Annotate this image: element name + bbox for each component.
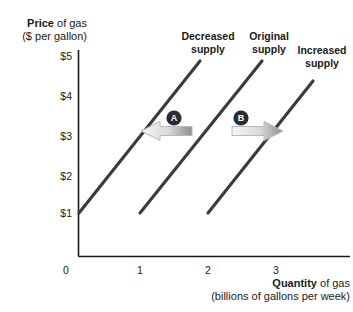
- y-tick-4: $4: [48, 90, 72, 102]
- curve-label-increased-supply: Increased supply: [292, 44, 352, 69]
- marker-b-label: B: [238, 113, 245, 123]
- y-axis-title-rest: of gas: [54, 17, 87, 29]
- y-tick-5: $5: [48, 50, 72, 62]
- marker-a-label: A: [171, 113, 178, 123]
- x-axis-title-units: (billions of gallons per week): [211, 290, 350, 302]
- y-axis-title-bold: Price: [27, 17, 54, 29]
- x-tick-1: 1: [132, 264, 148, 276]
- x-axis-title: Quantity of gas (billions of gallons per…: [150, 277, 350, 303]
- y-axis-title-units: ($ per gallon): [22, 30, 87, 42]
- y-tick-1: $1: [48, 207, 72, 219]
- marker-b: B: [233, 110, 248, 125]
- x-tick-3: 3: [268, 264, 284, 276]
- x-axis-title-rest: of gas: [317, 277, 350, 289]
- curve-decreased-supply: [79, 61, 200, 213]
- x-tick-0: 0: [58, 264, 74, 276]
- marker-a: A: [166, 110, 181, 125]
- x-axis-title-bold: Quantity: [272, 277, 317, 289]
- curve-label-decreased-supply: Decreased supply: [174, 30, 242, 55]
- curve-increased-supply: [208, 81, 313, 213]
- curve-label-original-supply: Original supply: [243, 30, 295, 55]
- y-tick-3: $3: [48, 130, 72, 142]
- x-tick-2: 2: [200, 264, 216, 276]
- y-tick-2: $2: [48, 170, 72, 182]
- y-axis-title: Price of gas ($ per gallon): [3, 17, 87, 43]
- supply-shift-diagram: A B Price of gas ($ per gallon) $5 $4 $3…: [0, 0, 353, 312]
